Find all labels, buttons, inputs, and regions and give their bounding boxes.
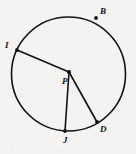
point-label-i: I — [5, 41, 9, 50]
point-label-b: B — [100, 7, 106, 16]
diagram-canvas — [0, 0, 136, 154]
geometry-diagram: B I P D J — [0, 0, 136, 154]
point-marker-d — [95, 120, 99, 124]
point-marker-i — [15, 48, 19, 52]
segment-i-p — [17, 50, 69, 72]
point-label-j: J — [63, 136, 68, 145]
segment-p-d — [69, 72, 97, 122]
point-marker-b — [94, 16, 98, 20]
point-label-d: D — [100, 125, 107, 134]
point-marker-p — [67, 70, 71, 74]
point-label-p: P — [62, 77, 68, 86]
point-marker-j — [63, 129, 67, 133]
